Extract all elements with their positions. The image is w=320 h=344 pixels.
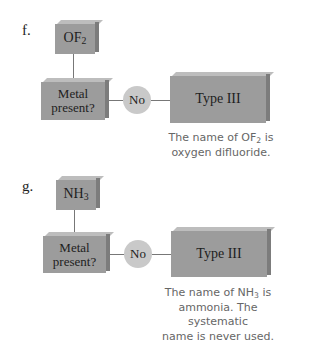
connector-line bbox=[151, 100, 170, 101]
compound-subscript: 3 bbox=[84, 192, 89, 203]
connector-line bbox=[152, 254, 171, 255]
connector-line bbox=[110, 254, 124, 255]
answer-text: No bbox=[129, 92, 145, 108]
compound-subscript: 2 bbox=[82, 36, 87, 47]
result-text: Type III bbox=[196, 247, 241, 262]
answer-circle: No bbox=[123, 86, 151, 114]
caption-text: oxygen difluoride. bbox=[171, 146, 270, 159]
caption: The name of NH3 isammonia. The systemati… bbox=[148, 286, 288, 344]
compound-box: NH3 bbox=[56, 180, 96, 210]
decision-box: Metal present? bbox=[41, 82, 105, 120]
caption-text: is bbox=[261, 131, 273, 144]
section-label: g. bbox=[22, 178, 33, 195]
result-text: Type III bbox=[195, 92, 240, 107]
decision-text: Metal present? bbox=[50, 241, 100, 268]
connector-line bbox=[109, 100, 123, 101]
result-box: Type III bbox=[170, 76, 266, 123]
caption-text: ammonia. The systematic name is never us… bbox=[162, 301, 274, 343]
answer-text: No bbox=[130, 246, 146, 262]
caption: The name of OF2 isoxygen difluoride. bbox=[160, 131, 282, 160]
decision-box: Metal present? bbox=[43, 236, 106, 273]
section-label: f. bbox=[22, 22, 31, 39]
caption-text: is bbox=[259, 286, 271, 299]
caption-text: The name of OF bbox=[169, 131, 257, 144]
compound-formula: NH bbox=[63, 186, 83, 201]
compound-formula: OF bbox=[64, 30, 82, 45]
caption-text: The name of NH bbox=[165, 286, 254, 299]
compound-box: OF2 bbox=[55, 24, 95, 54]
decision-text: Metal present? bbox=[48, 87, 98, 114]
answer-circle: No bbox=[124, 240, 152, 268]
result-box: Type III bbox=[171, 231, 267, 277]
